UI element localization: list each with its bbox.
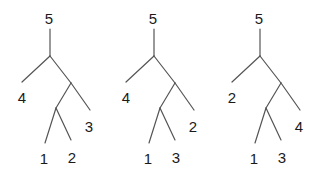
tree-3: 5 2 4 1 3 xyxy=(228,10,303,167)
root-label: 5 xyxy=(45,10,53,27)
mid-leaf-label: 2 xyxy=(189,118,197,135)
outer-leaf-label: 4 xyxy=(122,89,130,106)
inner-subtree-edge xyxy=(160,83,175,108)
inner-right-edge xyxy=(266,108,281,140)
mid-leaf-edge xyxy=(281,83,300,110)
right-subtree-edge xyxy=(260,56,281,83)
inner-left-edge xyxy=(255,108,266,143)
inner-left-label: 1 xyxy=(40,150,48,167)
inner-subtree-edge xyxy=(56,83,71,108)
inner-right-label: 2 xyxy=(68,149,76,166)
outer-leaf-edge xyxy=(22,56,50,82)
inner-right-label: 3 xyxy=(172,149,180,166)
right-subtree-edge xyxy=(50,56,71,83)
mid-leaf-label: 3 xyxy=(85,118,93,135)
inner-left-label: 1 xyxy=(250,150,258,167)
inner-right-edge xyxy=(56,108,71,140)
tree-diagram-canvas: 5 4 3 1 2 5 4 2 1 3 5 2 4 1 3 xyxy=(0,0,319,176)
mid-leaf-label: 4 xyxy=(295,118,303,135)
right-subtree-edge xyxy=(154,56,175,83)
root-label: 5 xyxy=(149,10,157,27)
outer-leaf-edge xyxy=(126,56,154,82)
inner-left-edge xyxy=(45,108,56,143)
inner-right-edge xyxy=(160,108,175,140)
mid-leaf-edge xyxy=(175,83,194,110)
outer-leaf-label: 4 xyxy=(18,89,26,106)
inner-left-edge xyxy=(149,108,160,143)
mid-leaf-edge xyxy=(71,83,90,110)
outer-leaf-edge xyxy=(232,56,260,82)
tree-2: 5 4 2 1 3 xyxy=(122,10,197,167)
root-label: 5 xyxy=(255,10,263,27)
outer-leaf-label: 2 xyxy=(228,89,236,106)
inner-right-label: 3 xyxy=(278,149,286,166)
inner-subtree-edge xyxy=(266,83,281,108)
tree-1: 5 4 3 1 2 xyxy=(18,10,93,167)
inner-left-label: 1 xyxy=(144,150,152,167)
